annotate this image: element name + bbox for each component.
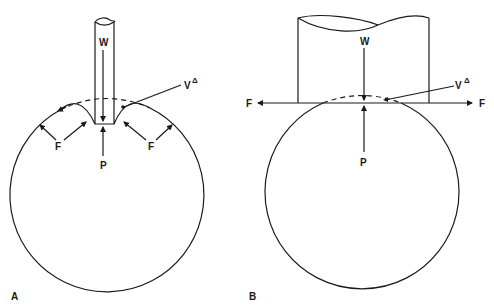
sphere-b-outline [265, 103, 459, 289]
reaction-label-b: P [360, 157, 367, 168]
force-arrow-a-right-2 [156, 125, 172, 140]
volume-label-a: V [184, 80, 191, 91]
force-label-a-right: F [148, 141, 154, 152]
sphere-a-outline [10, 103, 204, 292]
volume-label-b: V [455, 80, 462, 91]
force-label-b-left: F [246, 98, 252, 109]
volume-leader-b [385, 86, 454, 100]
force-label-a-left: F [55, 141, 61, 152]
panel-a [10, 18, 204, 292]
panel-label-a: A [11, 291, 18, 302]
force-arrow-a-right-1 [124, 122, 146, 140]
force-arrow-a-left-2 [64, 122, 86, 140]
load-label-a: W [99, 37, 109, 48]
load-label-b: W [360, 36, 370, 47]
volume-symbol-a: Δ [192, 76, 198, 85]
panel-label-b: B [249, 291, 256, 302]
panel-b [258, 16, 472, 289]
figure-canvas: W P F F V Δ A W P F F V Δ B [0, 0, 494, 308]
reaction-label-a: P [100, 160, 107, 171]
indenter-rod [95, 18, 115, 124]
volume-leader-a [124, 85, 181, 107]
force-label-b-right: F [479, 98, 485, 109]
volume-symbol-b: Δ [464, 76, 470, 85]
force-arrow-a-left-1 [40, 125, 56, 140]
